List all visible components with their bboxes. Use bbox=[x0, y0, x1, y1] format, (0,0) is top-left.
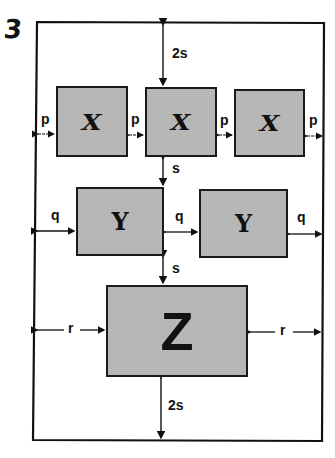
dim-p-3: p bbox=[220, 112, 229, 128]
dim-q-2: q bbox=[175, 208, 184, 224]
box-label: Y bbox=[235, 209, 252, 238]
dim-q-1: q bbox=[51, 207, 60, 223]
dim-bottom-2s: 2s bbox=[168, 397, 184, 413]
box-y-2: Y bbox=[199, 189, 288, 258]
dim-p-2: p bbox=[131, 111, 140, 127]
dim-r-1: r bbox=[68, 320, 73, 336]
box-y-1: Y bbox=[76, 187, 164, 256]
box-x-3: X bbox=[234, 89, 305, 157]
box-x-1: X bbox=[56, 86, 128, 157]
box-label: Y bbox=[111, 207, 128, 236]
dim-s-upper: s bbox=[172, 160, 180, 176]
dim-s-lower: s bbox=[172, 260, 180, 276]
box-label: X bbox=[260, 110, 280, 136]
dim-p-4: p bbox=[309, 112, 318, 128]
box-label: Z bbox=[161, 300, 194, 362]
dim-p-1: p bbox=[41, 111, 50, 127]
dim-top-2s: 2s bbox=[172, 45, 188, 61]
box-x-2: X bbox=[145, 87, 217, 157]
box-label: X bbox=[171, 109, 191, 135]
dim-r-2: r bbox=[280, 322, 285, 338]
box-z: Z bbox=[106, 285, 248, 377]
box-label: X bbox=[82, 109, 102, 135]
dim-q-3: q bbox=[297, 209, 306, 225]
